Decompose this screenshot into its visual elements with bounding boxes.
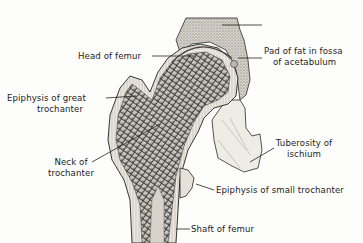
label-neck-of-trochanter-line2: trochanter: [46, 168, 96, 179]
anatomy-figure: Head of femur Pad of fat in fossa of ace…: [0, 0, 363, 243]
fat-pad: [231, 61, 238, 68]
label-pad-of-fat-line1: Pad of fat in fossa: [264, 46, 343, 57]
leader-small-trochanter: [196, 184, 214, 190]
label-shaft-of-femur: Shaft of femur: [191, 224, 254, 235]
small-trochanter: [180, 168, 194, 198]
label-neck-of-trochanter-line1: Neck of: [46, 157, 96, 168]
label-epiphysis-small-trochanter: Epiphysis of small trochanter: [216, 185, 344, 196]
label-epiphysis-great-trochanter-line2: trochanter: [7, 104, 86, 115]
label-tuberosity-of-ischium-line2: ischium: [270, 149, 338, 160]
label-epiphysis-great-trochanter: Epiphysis of great trochanter: [7, 93, 86, 115]
label-neck-of-trochanter: Neck of trochanter: [46, 157, 96, 179]
label-pad-of-fat: Pad of fat in fossa of acetabulum: [264, 46, 343, 68]
label-pad-of-fat-line2: of acetabulum: [264, 57, 343, 68]
label-tuberosity-of-ischium-line1: Tuberosity of: [270, 138, 338, 149]
label-tuberosity-of-ischium: Tuberosity of ischium: [270, 138, 338, 160]
femur-illustration: [0, 0, 363, 243]
ischium: [212, 100, 262, 172]
label-head-of-femur: Head of femur: [78, 51, 141, 62]
label-epiphysis-great-trochanter-line1: Epiphysis of great: [7, 93, 86, 104]
